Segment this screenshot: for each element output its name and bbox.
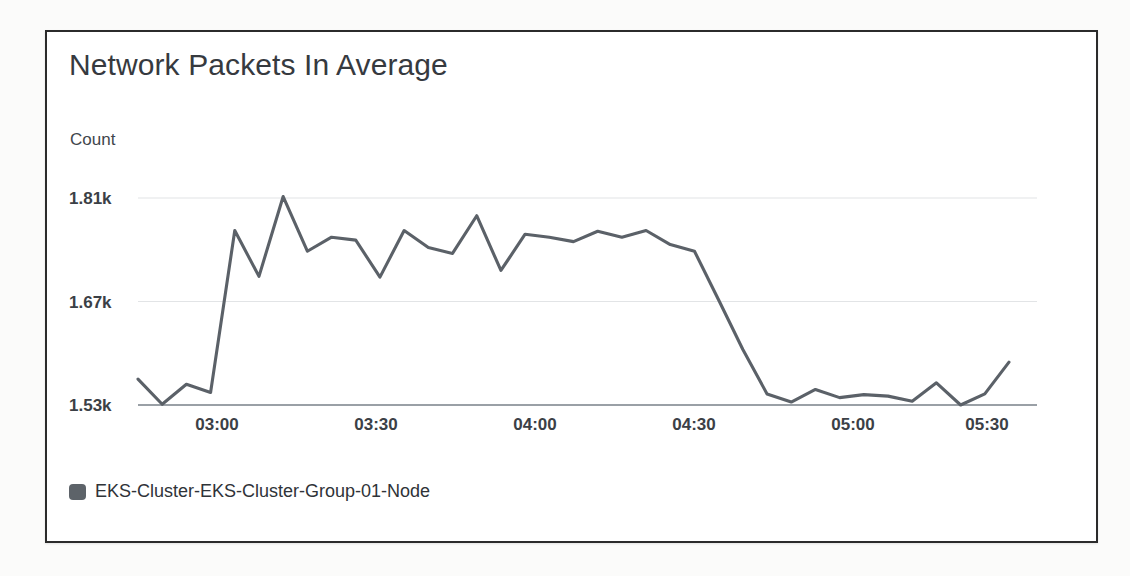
metric-widget-network-packets-in-average: Network Packets In Average Count 1.53k1.…: [45, 30, 1098, 543]
line-chart-svg[interactable]: 1.53k1.67k1.81k 03:0003:3004:0004:3005:0…: [47, 32, 1096, 541]
x-tick-label: 04:00: [513, 415, 556, 434]
series-line: [138, 197, 1009, 405]
x-tick-label: 03:30: [354, 415, 397, 434]
legend-color-swatch-icon: [69, 484, 86, 500]
chart-y-tick-labels: 1.53k1.67k1.81k: [69, 189, 112, 415]
x-tick-label: 05:00: [831, 415, 874, 434]
y-tick-label: 1.81k: [69, 189, 112, 208]
x-tick-label: 05:30: [965, 415, 1008, 434]
chart-x-tick-labels: 03:0003:3004:0004:3005:0005:30: [195, 415, 1008, 434]
chart-plot-area[interactable]: 1.53k1.67k1.81k 03:0003:3004:0004:3005:0…: [47, 32, 1096, 541]
chart-legend[interactable]: EKS-Cluster-EKS-Cluster-Group-01-Node: [69, 481, 430, 502]
y-tick-label: 1.53k: [69, 396, 112, 415]
x-tick-label: 03:00: [195, 415, 238, 434]
chart-series-layer: [138, 197, 1009, 405]
y-tick-label: 1.67k: [69, 293, 112, 312]
x-tick-label: 04:30: [672, 415, 715, 434]
legend-series-label: EKS-Cluster-EKS-Cluster-Group-01-Node: [95, 481, 430, 502]
page-background: Network Packets In Average Count 1.53k1.…: [0, 0, 1130, 576]
